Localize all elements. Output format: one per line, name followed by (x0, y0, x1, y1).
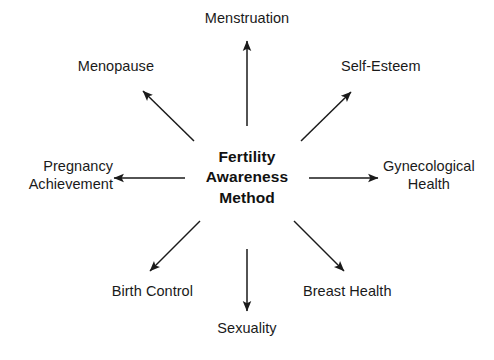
node-pregnancy-achievement: Pregnancy Achievement (29, 158, 113, 194)
node-pregnancy-achievement-label-line-2: Achievement (29, 176, 113, 194)
node-menopause-label: Menopause (78, 58, 154, 76)
node-self-esteem: Self-Esteem (341, 58, 421, 76)
node-birth-control: Birth Control (112, 283, 193, 301)
node-gynecological-health: Gynecological Health (383, 158, 475, 194)
node-self-esteem-label: Self-Esteem (341, 58, 421, 76)
node-menopause: Menopause (78, 58, 154, 76)
arrow-to-breast-health (294, 221, 344, 271)
center-node-fertility-awareness-method: Fertility Awareness Method (206, 147, 288, 208)
node-sexuality: Sexuality (217, 320, 276, 338)
node-breast-health: Breast Health (303, 283, 392, 301)
arrow-to-birth-control (150, 221, 200, 271)
node-menstruation: Menstruation (205, 10, 289, 28)
center-node-line-1: Fertility (206, 147, 288, 167)
arrow-to-menopause (143, 91, 194, 141)
node-gynecological-health-label-line-2: Health (383, 176, 475, 194)
node-birth-control-label: Birth Control (112, 283, 193, 301)
node-menstruation-label: Menstruation (205, 10, 289, 28)
arrow-to-self-esteem (301, 92, 351, 141)
node-pregnancy-achievement-label-line-1: Pregnancy (29, 158, 113, 176)
node-gynecological-health-label-line-1: Gynecological (383, 158, 475, 176)
node-sexuality-label: Sexuality (217, 320, 276, 338)
center-node-line-3: Method (206, 188, 288, 208)
node-breast-health-label: Breast Health (303, 283, 392, 301)
fertility-awareness-method-diagram: Fertility Awareness Method Menstruation … (0, 0, 494, 360)
center-node-line-2: Awareness (206, 168, 288, 188)
